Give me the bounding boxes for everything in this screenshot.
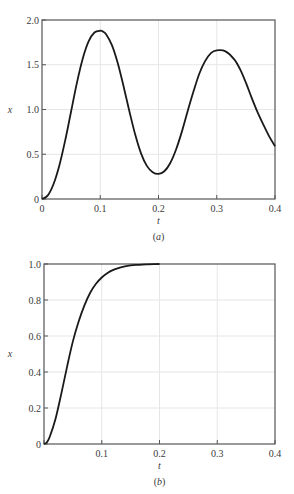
chart-panel-b: 0.10.20.30.4 00.20.40.60.81.0 t x (b)	[7, 259, 281, 489]
chart-panel-a: 00.10.20.30.4 00.51.01.52.0 t x (a)	[7, 15, 281, 244]
x-tick-label: 0.2	[153, 448, 166, 459]
panel-caption: (a)	[153, 231, 165, 243]
figure: 00.10.20.30.4 00.51.01.52.0 t x (a) 0.10…	[0, 0, 294, 494]
y-axis-label: x	[7, 348, 13, 359]
x-tick-labels: 00.10.20.30.4	[40, 203, 282, 214]
y-tick-label: 0.6	[29, 331, 42, 342]
y-tick-labels: 00.20.40.60.81.0	[29, 259, 42, 450]
y-tick-label: 2.0	[27, 15, 40, 26]
x-axis-label: t	[157, 215, 160, 226]
x-tick-label: 0.4	[269, 203, 282, 214]
x-axis-label: t	[158, 460, 161, 471]
x-tick-label: 0.1	[96, 448, 109, 459]
x-tick-label: 0.3	[211, 203, 224, 214]
grid-lines	[44, 264, 275, 444]
grid-lines	[42, 20, 275, 199]
y-tick-label: 0	[34, 194, 39, 205]
y-tick-label: 0.5	[27, 149, 40, 160]
y-axis-label: x	[7, 104, 13, 115]
y-tick-label: 1.0	[27, 104, 40, 115]
y-tick-label: 0	[36, 439, 41, 450]
y-tick-label: 0.2	[29, 403, 42, 414]
y-tick-label: 1.0	[29, 259, 42, 270]
y-tick-labels: 00.51.01.52.0	[27, 15, 40, 205]
x-tick-label: 0.1	[94, 203, 107, 214]
x-tick-label: 0.4	[269, 448, 282, 459]
x-tick-label: 0.2	[152, 203, 165, 214]
x-tick-label: 0	[40, 203, 45, 214]
y-tick-label: 0.4	[29, 367, 42, 378]
y-tick-label: 0.8	[29, 295, 42, 306]
x-tick-label: 0.3	[211, 448, 224, 459]
panel-caption: (b)	[154, 476, 166, 488]
y-tick-label: 1.5	[27, 59, 40, 70]
x-tick-labels: 0.10.20.30.4	[96, 448, 282, 459]
